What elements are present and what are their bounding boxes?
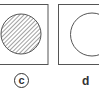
label-c: c (14, 73, 29, 88)
label-d: d (82, 75, 89, 87)
hatched-circle (1, 14, 41, 54)
panel-c (0, 5, 48, 65)
panel-d (59, 5, 100, 65)
label-c-text: c (18, 75, 24, 86)
empty-circle (71, 13, 100, 56)
